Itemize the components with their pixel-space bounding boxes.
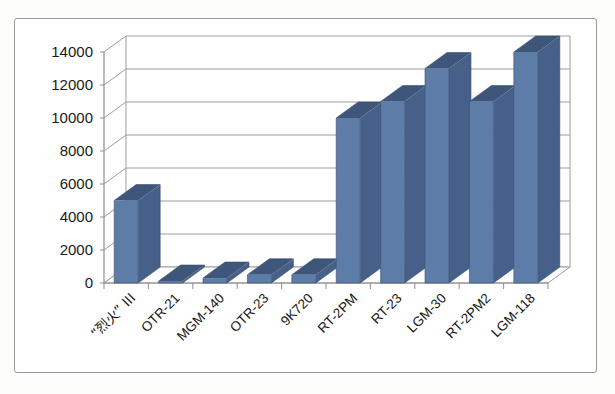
bar-side-face-0: [138, 185, 160, 284]
bar-8: [469, 86, 515, 284]
grid-connector-12000: [104, 69, 126, 85]
y-tick-label-14000: 14000: [51, 43, 93, 60]
bar-6: [381, 86, 427, 284]
bar-side-face-9: [538, 36, 560, 283]
bar-7: [425, 53, 471, 284]
bar-side-face-6: [405, 86, 427, 284]
y-tick-label-0: 0: [85, 274, 93, 291]
y-tick-label-2000: 2000: [60, 241, 93, 258]
bar-front-face-3: [247, 275, 271, 283]
x-tick-label-6: RT-23: [368, 291, 404, 327]
x-tick-label-9: LGM-118: [488, 291, 538, 341]
x-tick-label-5: RT-2PM: [315, 291, 360, 336]
x-tick-label-1: OTR-21: [138, 291, 183, 336]
y-axis-tick-labels: 02000400060008000100001200014000: [51, 43, 93, 291]
bar-side-face-7: [449, 53, 471, 284]
x-tick-label-0: “烈火” III: [87, 290, 138, 341]
x-tick-label-8: RT-2PM2: [443, 291, 494, 342]
bar-side-face-5: [360, 102, 382, 283]
x-tick-label-2: MGM-140: [174, 291, 227, 344]
grid-connector-10000: [104, 102, 126, 118]
bar-front-face-8: [469, 102, 493, 284]
x-tick-label-4: 9K720: [278, 291, 316, 329]
grid-connector-14000: [104, 36, 126, 52]
bar-chart-plot: 02000400060008000100001200014000 “烈火” II…: [0, 0, 615, 394]
bar-5: [336, 102, 382, 283]
grid-connector-6000: [104, 168, 126, 184]
bar-side-face-8: [493, 86, 515, 284]
bar-front-face-5: [336, 118, 360, 283]
bar-front-face-2: [203, 278, 227, 283]
bar-0: [114, 185, 160, 284]
bar-9: [514, 36, 560, 283]
y-tick-label-10000: 10000: [51, 109, 93, 126]
x-tick-label-3: OTR-23: [227, 291, 272, 336]
bar-front-face-4: [292, 275, 316, 283]
y-tick-label-4000: 4000: [60, 208, 93, 225]
y-tick-label-12000: 12000: [51, 76, 93, 93]
x-tick-label-7: LGM-30: [404, 291, 449, 336]
bar-front-face-0: [114, 201, 138, 284]
y-tick-label-8000: 8000: [60, 142, 93, 159]
bar-front-face-6: [381, 102, 405, 284]
x-axis-tick-labels: “烈火” IIIOTR-21MGM-140OTR-239K720RT-2PMRT…: [87, 290, 538, 344]
y-tick-label-6000: 6000: [60, 175, 93, 192]
bar-front-face-9: [514, 52, 538, 283]
bar-front-face-7: [425, 69, 449, 284]
chart-frame: 02000400060008000100001200014000 “烈火” II…: [0, 0, 615, 394]
bars-group: [114, 36, 560, 283]
grid-connector-8000: [104, 135, 126, 151]
